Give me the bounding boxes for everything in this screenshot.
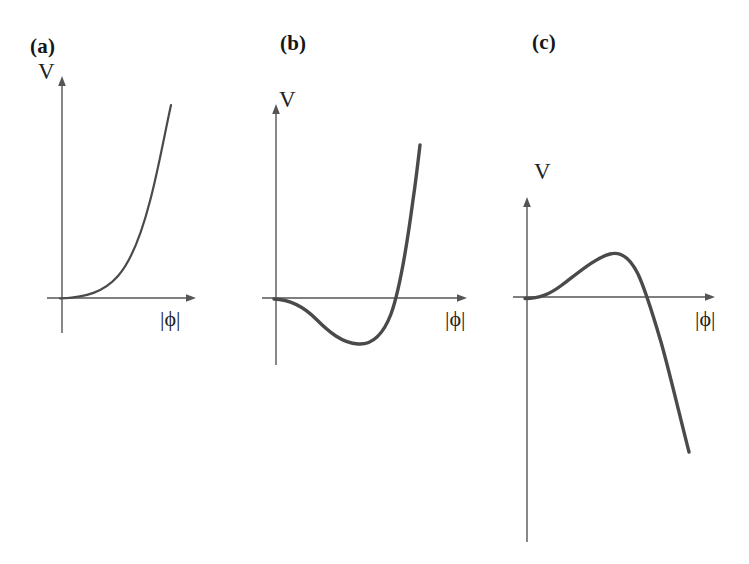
figure-container: (a) V |ϕ| (b) V bbox=[0, 0, 749, 564]
panel-plots-svg bbox=[0, 0, 749, 564]
panel-a-phi-axis-arrowhead bbox=[186, 294, 196, 302]
panel-c-axes bbox=[513, 197, 715, 542]
panel-a-axes bbox=[47, 76, 196, 333]
panel-a-tag: (a) bbox=[30, 36, 55, 57]
panel-b-phi-axis-arrowhead bbox=[457, 294, 467, 302]
panel-b-tag: (b) bbox=[280, 33, 306, 54]
panel-c-phi-axis-label: |ϕ| bbox=[695, 308, 715, 330]
panel-c-v-axis-label: V bbox=[534, 160, 551, 183]
panel-a-curve bbox=[60, 105, 171, 299]
panel-c-curve bbox=[525, 253, 689, 452]
panel-b-phi-axis-label: |ϕ| bbox=[445, 308, 465, 330]
panel-b-curve bbox=[274, 145, 420, 344]
panel-b-axes bbox=[262, 104, 467, 365]
panel-a-v-axis-arrowhead bbox=[58, 76, 66, 86]
panel-a-v-axis-label: V bbox=[38, 60, 55, 83]
panel-c-tag: (c) bbox=[532, 32, 556, 53]
panel-c-phi-axis-arrowhead bbox=[705, 293, 715, 301]
panel-c-v-axis-arrowhead bbox=[523, 197, 531, 207]
panel-b-v-axis-label: V bbox=[279, 88, 296, 111]
panel-a-phi-axis-label: |ϕ| bbox=[160, 308, 180, 330]
